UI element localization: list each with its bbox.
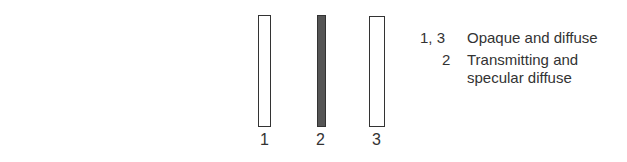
legend-text-2b: specular diffuse — [467, 69, 572, 87]
panel-1 — [258, 15, 271, 127]
legend-text-1: Opaque and diffuse — [467, 29, 598, 47]
panel-2-label: 2 — [316, 131, 325, 149]
panel-2 — [317, 15, 326, 127]
legend-key-2: 2 — [442, 51, 450, 69]
legend-key-1: 1, 3 — [420, 29, 445, 47]
legend-text-2a: Transmitting and — [467, 51, 578, 69]
panel-1-label: 1 — [260, 131, 269, 149]
panel-3 — [369, 16, 385, 127]
panel-3-label: 3 — [372, 131, 381, 149]
